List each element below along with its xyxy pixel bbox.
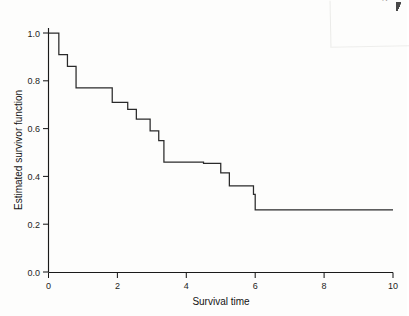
y-tick-label-0-8: 0.8 xyxy=(27,76,40,86)
y-axis-tick-labels: 1.0 0.8 0.6 0.4 0.2 0.0 xyxy=(27,29,40,278)
y-axis xyxy=(43,28,49,272)
x-tick-label-0: 0 xyxy=(46,281,51,291)
y-axis-title: Estimated survivor function xyxy=(13,90,24,210)
y-tick-label-0-4: 0.4 xyxy=(27,172,40,182)
x-axis-tick-labels: 0 2 4 6 8 10 xyxy=(46,281,398,291)
y-tick-label-0-2: 0.2 xyxy=(27,220,40,230)
x-axis-title: Survival time xyxy=(192,296,250,307)
y-tick-label-0-6: 0.6 xyxy=(27,124,40,134)
x-tick-label-6: 6 xyxy=(253,281,258,291)
x-tick-label-8: 8 xyxy=(322,281,327,291)
y-tick-label-0-0: 0.0 xyxy=(27,268,40,278)
x-tick-label-2: 2 xyxy=(115,281,120,291)
x-tick-label-10: 10 xyxy=(388,281,398,291)
x-axis xyxy=(49,273,394,279)
survivor-step-curve xyxy=(49,33,394,210)
x-tick-label-4: 4 xyxy=(184,281,189,291)
y-tick-label-1-0: 1.0 xyxy=(27,29,40,39)
